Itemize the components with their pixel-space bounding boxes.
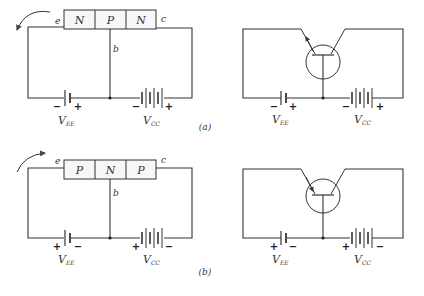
panel-b-block-circuit: e P N P c b + − VEE + − VCC [17,153,192,266]
collector-label: c [161,155,166,165]
region-emitter: P [75,164,84,177]
vee-right-sign: − [74,241,82,252]
region-base: N [105,164,116,177]
vcc-battery-icon [142,228,162,248]
caption-b: (b) [199,267,212,277]
region-collector: P [136,164,145,177]
vcc-right-sign: − [376,241,384,252]
region-collector: N [135,14,146,27]
vee-label: VEE [58,114,75,127]
vee-label: VEE [272,113,289,126]
vcc-left-sign: − [132,101,140,112]
vcc-battery-icon [352,88,372,108]
emitter-label: e [55,156,60,166]
vee-battery-icon [65,90,70,106]
vcc-left-sign: + [342,241,350,252]
transistor-bias-figure: e N P N c b − + VEE − + [0,0,424,296]
vcc-label: VCC [143,114,161,127]
vcc-label: VCC [354,113,372,126]
collector-label: c [161,14,166,24]
vcc-label: VCC [143,253,161,266]
vee-battery-icon [281,91,286,105]
vcc-right-sign: − [165,241,173,252]
panel-b-symbol-circuit: + − VEE + − VCC [243,169,403,266]
pnp-transistor-icon [301,169,345,238]
vcc-left-sign: + [132,241,140,252]
vee-label: VEE [272,253,289,266]
region-base: P [106,14,115,27]
vee-battery-icon [65,230,70,246]
vcc-right-sign: + [165,101,173,112]
npn-transistor-icon [301,29,345,98]
vcc-left-sign: − [342,101,350,112]
vcc-label: VCC [354,253,372,266]
emitter-label: e [55,16,60,26]
vcc-right-sign: + [376,101,384,112]
vcc-battery-icon [352,228,372,248]
vee-right-sign: − [289,241,297,252]
panel-a-block-circuit: e N P N c b − + VEE − + [17,10,192,127]
vee-label: VEE [58,253,75,266]
vcc-battery-icon [142,88,162,108]
panel-a-symbol-circuit: − + VEE − + VCC [243,29,403,126]
base-label: b [113,188,119,198]
vee-left-sign: + [270,241,278,252]
vee-left-sign: − [270,101,278,112]
base-label: b [113,44,119,54]
vee-right-sign: + [289,101,297,112]
caption-a: (a) [199,122,212,132]
vee-battery-icon [281,231,286,245]
vee-right-sign: + [74,101,82,112]
current-arrow-icon [17,153,45,172]
vee-left-sign: − [53,101,61,112]
region-emitter: N [74,14,85,27]
vee-left-sign: + [53,241,61,252]
